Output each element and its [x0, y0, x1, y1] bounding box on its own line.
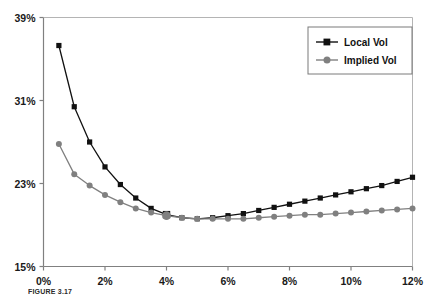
x-tick-label: 10%	[340, 275, 362, 287]
series-implied-vol	[56, 141, 416, 222]
data-point-marker	[287, 202, 292, 207]
data-point-marker	[348, 189, 353, 194]
data-point-marker	[56, 141, 62, 147]
legend-marker	[324, 57, 331, 64]
data-point-marker	[210, 216, 216, 222]
data-point-marker	[333, 211, 339, 217]
y-tick-label: 31%	[14, 95, 36, 107]
data-point-marker	[162, 211, 171, 220]
data-point-marker	[72, 104, 77, 109]
y-axis-tick-labels: 15%23%31%39%	[14, 12, 36, 273]
data-point-marker	[410, 175, 415, 180]
data-point-marker	[241, 211, 246, 216]
data-point-marker	[317, 212, 323, 218]
data-point-marker	[225, 216, 231, 222]
data-point-marker	[348, 210, 354, 216]
x-axis-tick-labels: 0%2%4%6%8%10%12%	[36, 275, 424, 287]
data-point-marker	[287, 213, 293, 219]
data-point-marker	[364, 186, 369, 191]
data-point-marker	[302, 212, 308, 218]
data-point-marker	[272, 205, 277, 210]
data-point-marker	[118, 182, 123, 187]
data-point-marker	[133, 195, 138, 200]
data-point-marker	[410, 205, 416, 211]
data-point-marker	[148, 210, 154, 216]
data-point-marker	[256, 208, 261, 213]
data-point-marker	[102, 192, 108, 198]
data-point-marker	[102, 164, 107, 169]
data-point-marker	[71, 171, 77, 177]
data-point-marker	[87, 139, 92, 144]
x-tick-label: 4%	[159, 275, 175, 287]
x-tick-label: 12%	[402, 275, 424, 287]
data-point-marker	[333, 192, 338, 197]
chart-canvas: 15%23%31%39% 0%2%4%6%8%10%12% Local VolI…	[0, 0, 433, 299]
data-point-marker	[379, 183, 384, 188]
data-point-marker	[302, 199, 307, 204]
y-tick-label: 15%	[14, 261, 36, 273]
y-tick-label: 39%	[14, 12, 36, 24]
data-point-marker	[179, 215, 185, 221]
x-tick-label: 8%	[282, 275, 298, 287]
volatility-chart-figure: 15%23%31%39% 0%2%4%6%8%10%12% Local VolI…	[0, 0, 433, 299]
legend-label: Implied Vol	[344, 55, 397, 66]
legend-label: Local Vol	[344, 37, 388, 48]
data-point-marker	[395, 179, 400, 184]
data-point-marker	[240, 216, 246, 222]
data-point-marker	[194, 216, 200, 222]
figure-caption: FIGURE 3.17	[28, 288, 428, 295]
x-tick-label: 6%	[220, 275, 236, 287]
series-line	[59, 144, 413, 219]
data-point-marker	[56, 43, 61, 48]
x-tick-label: 0%	[36, 275, 52, 287]
legend-box	[308, 27, 412, 74]
data-point-marker	[87, 183, 93, 189]
data-point-marker	[363, 209, 369, 215]
data-point-marker	[133, 205, 139, 211]
data-point-marker	[256, 215, 262, 221]
data-point-marker	[394, 206, 400, 212]
y-tick-label: 23%	[14, 178, 36, 190]
x-tick-label: 2%	[97, 275, 113, 287]
data-point-marker	[117, 199, 123, 205]
data-point-marker	[379, 207, 385, 213]
data-point-marker	[271, 214, 277, 220]
legend-marker	[324, 39, 331, 46]
data-point-marker	[318, 195, 323, 200]
chart-legend: Local VolImplied Vol	[308, 27, 412, 74]
